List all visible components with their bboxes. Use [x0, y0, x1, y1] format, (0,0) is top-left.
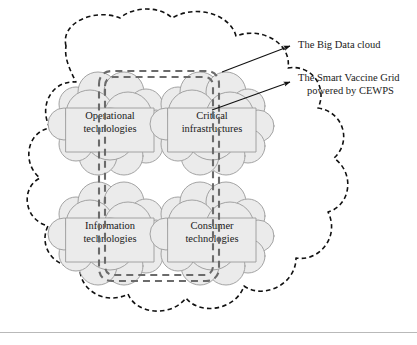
leader-line-big-data-cloud [222, 46, 290, 72]
footer-rule [0, 332, 417, 333]
cloud-label-line2: technologies [83, 123, 136, 134]
cloud-label-line1: Operational [85, 110, 135, 121]
callout-label-big-data-cloud: The Big Data cloud [298, 39, 381, 50]
cloud-label-line1: Information [85, 220, 136, 231]
inner-clouds-group: Operational technologies Critical infras… [48, 72, 274, 285]
callout-big-data-cloud: The Big Data cloud [222, 39, 381, 72]
callout-label-smart-vaccine-grid-line1: The Smart Vaccine Grid [298, 72, 400, 83]
callout-label-smart-vaccine-grid-line2: powered by CEWPS [307, 85, 394, 96]
cloud-label-line2: technologies [83, 233, 136, 244]
figure-canvas: The Big Data cloud containing the Smart … [0, 0, 417, 345]
big-data-cloud-diagram: The Big Data cloud containing the Smart … [0, 0, 417, 345]
